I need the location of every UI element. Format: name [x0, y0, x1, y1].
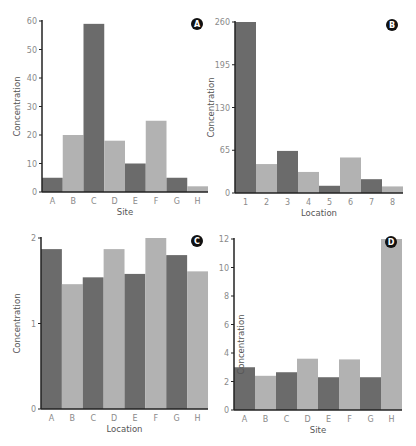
x-tick-label: A [50, 197, 56, 206]
x-axis-title: Location [107, 424, 143, 434]
y-tick-label: 30 [27, 103, 37, 112]
x-tick-label: B [263, 415, 269, 424]
bar-b [62, 284, 83, 409]
y-tick-label: 50 [27, 46, 37, 55]
y-axis-title: Concentration [12, 76, 22, 136]
y-tick-label: 20 [27, 131, 37, 140]
x-tick-label: A [49, 414, 55, 423]
y-axis-title: Concentration [236, 314, 246, 374]
y-tick-label: 0 [224, 406, 229, 415]
y-tick-label: 2 [224, 378, 229, 387]
bar-d [297, 359, 318, 410]
y-tick-label: 4 [224, 349, 229, 358]
x-tick-label: E [132, 414, 137, 423]
x-tick-label: 8 [390, 198, 395, 207]
bar-5 [319, 186, 340, 193]
bar-e [318, 377, 339, 410]
bar-g [360, 377, 381, 410]
y-tick-label: 260 [215, 18, 230, 27]
bar-a [42, 178, 63, 192]
x-tick-label: F [347, 415, 352, 424]
bar-f [146, 121, 167, 192]
y-tick-label: 0 [31, 405, 36, 414]
bar-b [63, 135, 84, 192]
bar-c [276, 372, 297, 410]
x-tick-label: 6 [348, 198, 353, 207]
y-tick-label: 130 [215, 104, 230, 113]
x-tick-label: G [174, 414, 180, 423]
y-tick-label: 0 [225, 189, 230, 198]
bar-d [104, 141, 125, 192]
y-tick-label: 0 [32, 188, 37, 197]
y-tick-label: 40 [27, 74, 37, 83]
x-tick-label: G [174, 197, 180, 206]
x-tick-label: A [242, 415, 248, 424]
bar-4 [298, 172, 319, 193]
y-tick-label: 2 [31, 234, 36, 243]
y-tick-label: 1 [31, 320, 36, 329]
y-tick-label: 8 [224, 292, 229, 301]
x-tick-label: C [90, 414, 96, 423]
x-tick-label: D [304, 415, 310, 424]
x-tick-label: H [195, 414, 201, 423]
y-tick-label: 195 [215, 61, 230, 70]
y-tick-label: 10 [219, 264, 229, 273]
x-tick-label: 2 [264, 198, 269, 207]
panel-badge-label: D [388, 238, 395, 247]
x-tick-label: E [326, 415, 331, 424]
x-tick-label: C [284, 415, 290, 424]
bar-h [381, 239, 402, 410]
y-tick-label: 65 [220, 146, 230, 155]
x-axis-title: Location [301, 208, 337, 218]
panel-badge-label: A [194, 20, 201, 29]
x-tick-label: E [133, 197, 138, 206]
bar-8 [382, 186, 403, 193]
bar-g [167, 178, 188, 192]
x-tick-label: F [154, 197, 159, 206]
bar-a [41, 249, 62, 409]
bar-3 [277, 151, 298, 193]
bar-c [84, 24, 105, 192]
panel-badge-label: B [389, 21, 395, 30]
x-tick-label: H [388, 415, 394, 424]
x-tick-label: C [91, 197, 97, 206]
x-tick-label: D [112, 197, 118, 206]
x-tick-label: 7 [369, 198, 374, 207]
y-tick-label: 60 [27, 17, 37, 26]
bar-7 [361, 179, 382, 193]
x-tick-label: D [111, 414, 117, 423]
y-axis-title: Concentration [206, 77, 216, 137]
y-axis-title: Concentration [12, 293, 22, 353]
x-tick-label: 5 [327, 198, 332, 207]
x-tick-label: 3 [285, 198, 290, 207]
x-tick-label: 1 [243, 198, 248, 207]
y-tick-label: 12 [219, 235, 229, 244]
chart-panel-d: 024681012ABCDEFGHSiteConcentrationD [219, 235, 402, 435]
bar-6 [340, 157, 361, 193]
x-tick-label: B [70, 414, 76, 423]
bar-f [145, 238, 166, 409]
bar-e [125, 164, 146, 193]
x-tick-label: G [367, 415, 373, 424]
bar-d [104, 249, 125, 409]
bar-h [187, 271, 208, 409]
x-tick-label: 4 [306, 198, 311, 207]
bar-f [339, 359, 360, 410]
chart-panel-b: 06513019526012345678LocationConcentratio… [206, 18, 403, 218]
y-tick-label: 10 [27, 160, 37, 169]
bar-c [83, 277, 104, 409]
chart-figure: 0102030405060ABCDEFGHSiteConcentrationA0… [0, 0, 416, 446]
chart-panel-c: 012ABCDEFGHLocationConcentrationC [12, 234, 208, 434]
x-tick-label: H [195, 197, 201, 206]
x-axis-title: Site [117, 207, 133, 217]
bar-h [187, 186, 208, 192]
y-tick-label: 6 [224, 321, 229, 330]
bar-2 [256, 164, 277, 193]
bar-b [255, 376, 276, 410]
x-tick-label: B [70, 197, 76, 206]
bar-e [125, 274, 146, 409]
x-axis-title: Site [310, 425, 326, 435]
x-tick-label: F [154, 414, 159, 423]
chart-panel-a: 0102030405060ABCDEFGHSiteConcentrationA [12, 17, 208, 217]
bar-1 [235, 22, 256, 193]
